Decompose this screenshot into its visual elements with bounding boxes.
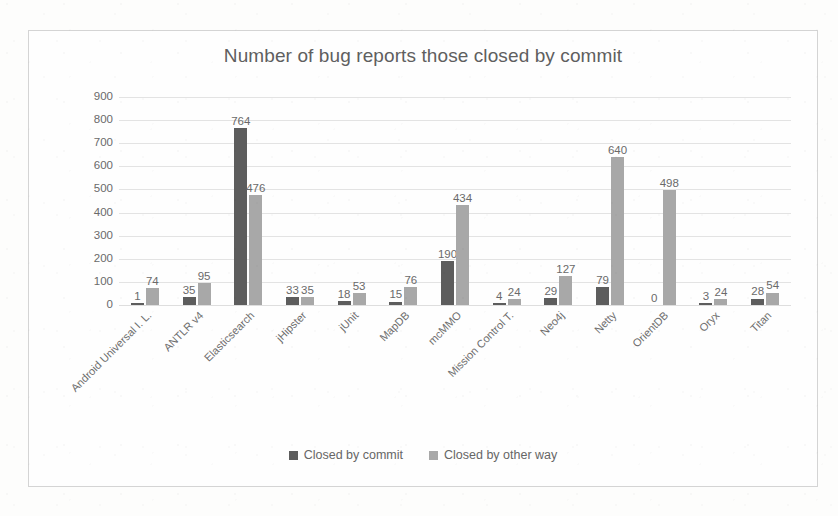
bar-pair: 29127 <box>533 97 585 305</box>
bar-group: 2854 <box>739 97 791 305</box>
bar-value-label: 33 <box>286 284 299 296</box>
bar[interactable]: 190 <box>441 261 454 305</box>
bar-pair: 3335 <box>274 97 326 305</box>
bar-pair: 424 <box>481 97 533 305</box>
bar-group: 1576 <box>377 97 429 305</box>
x-axis-tick-label: MapDB <box>318 309 411 402</box>
y-axis-tick-label: 200 <box>67 252 113 264</box>
bar[interactable]: 640 <box>611 157 624 305</box>
bar[interactable]: 76 <box>404 287 417 305</box>
bar-value-label: 79 <box>596 274 609 286</box>
bar-value-label: 764 <box>231 115 250 127</box>
x-axis-tick-label: Netty <box>525 309 618 402</box>
bar-value-label: 127 <box>556 263 575 275</box>
bar[interactable]: 18 <box>338 301 351 305</box>
bar[interactable]: 24 <box>714 299 727 305</box>
bar-group: 0498 <box>636 97 688 305</box>
bar-value-label: 1 <box>134 290 140 302</box>
bar-group: 3335 <box>274 97 326 305</box>
bar-value-label: 24 <box>508 286 521 298</box>
y-axis-tick-label: 0 <box>67 298 113 310</box>
x-axis-tick-label: Mission Control T. <box>422 309 515 402</box>
bar-group: 29127 <box>533 97 585 305</box>
bar[interactable]: 764 <box>234 128 247 305</box>
y-axis-tick-label: 100 <box>67 275 113 287</box>
legend-label: Closed by commit <box>304 448 403 462</box>
chart-legend: Closed by commitClosed by other way <box>29 448 817 462</box>
bar[interactable]: 127 <box>559 276 572 305</box>
bar-value-label: 3 <box>703 290 709 302</box>
bar-value-label: 4 <box>496 290 502 302</box>
y-axis-tick-label: 900 <box>67 90 113 102</box>
bar-value-label: 54 <box>766 279 779 291</box>
bar-value-label: 640 <box>608 144 627 156</box>
bar-value-label: 190 <box>438 248 457 260</box>
bar[interactable]: 15 <box>389 302 402 305</box>
bar-value-label: 53 <box>353 280 366 292</box>
bar[interactable]: 35 <box>301 297 314 305</box>
legend-item[interactable]: Closed by other way <box>429 448 557 462</box>
plot-area: 9008007006005004003002001000 17435957644… <box>119 97 791 305</box>
y-axis-tick-label: 700 <box>67 136 113 148</box>
x-axis-tick-label: Android Universal I. L. <box>60 309 153 402</box>
bar[interactable]: 79 <box>596 287 609 305</box>
bar[interactable]: 74 <box>146 288 159 305</box>
bar-group: 79640 <box>584 97 636 305</box>
bar[interactable]: 29 <box>544 298 557 305</box>
bar-pair: 1576 <box>377 97 429 305</box>
gridline <box>119 305 791 306</box>
x-axis-tick-label: jHipster <box>215 309 308 402</box>
bar[interactable]: 53 <box>353 293 366 305</box>
x-axis-tick-label: OrientDB <box>577 309 670 402</box>
bar-pair: 2854 <box>739 97 791 305</box>
bar[interactable]: 1 <box>131 303 144 305</box>
bar-value-label: 498 <box>660 177 679 189</box>
bar-pair: 174 <box>119 97 171 305</box>
bar[interactable]: 498 <box>663 190 676 305</box>
chart-title: Number of bug reports those closed by co… <box>29 45 817 67</box>
y-axis-tick-label: 500 <box>67 182 113 194</box>
x-axis-tick-label: jUnit <box>267 309 360 402</box>
bar-group: 174 <box>119 97 171 305</box>
y-axis-tick-label: 300 <box>67 229 113 241</box>
legend-item[interactable]: Closed by commit <box>289 448 403 462</box>
bar-value-label: 15 <box>389 288 402 300</box>
bar-pair: 764476 <box>222 97 274 305</box>
bar[interactable]: 24 <box>508 299 521 305</box>
bar-value-label: 28 <box>751 285 764 297</box>
bar[interactable]: 54 <box>766 293 779 305</box>
bar-value-label: 74 <box>146 275 159 287</box>
bar[interactable]: 33 <box>286 297 299 305</box>
bar-value-label: 76 <box>404 274 417 286</box>
bar[interactable]: 4 <box>493 303 506 305</box>
bar-group: 3595 <box>171 97 223 305</box>
x-axis-tick-label: Elasticsearch <box>163 309 256 402</box>
bar-value-label: 0 <box>651 292 657 304</box>
bar-pair: 324 <box>688 97 740 305</box>
bar-pair: 0498 <box>636 97 688 305</box>
x-axis-tick-label: Neo4j <box>474 309 567 402</box>
bar-group: 424 <box>481 97 533 305</box>
y-axis-tick-label: 800 <box>67 113 113 125</box>
bar[interactable]: 35 <box>183 297 196 305</box>
bar-value-label: 476 <box>246 182 265 194</box>
bar-group: 1853 <box>326 97 378 305</box>
bar-value-label: 35 <box>183 284 196 296</box>
bar-group: 190434 <box>429 97 481 305</box>
bar[interactable]: 95 <box>198 283 211 305</box>
bar-value-label: 434 <box>453 192 472 204</box>
bar-value-label: 35 <box>301 284 314 296</box>
bar-pair: 3595 <box>171 97 223 305</box>
bar[interactable]: 476 <box>249 195 262 305</box>
bar-pair: 190434 <box>429 97 481 305</box>
bar[interactable]: 3 <box>699 303 712 305</box>
bar[interactable]: 28 <box>751 299 764 305</box>
bar-value-label: 24 <box>715 286 728 298</box>
bar[interactable]: 434 <box>456 205 469 305</box>
chart-container: Number of bug reports those closed by co… <box>28 30 818 487</box>
y-axis-tick-label: 400 <box>67 206 113 218</box>
x-axis-tick-label: mcMMO <box>370 309 463 402</box>
y-axis-tick-label: 600 <box>67 159 113 171</box>
legend-label: Closed by other way <box>444 448 557 462</box>
bar-pair: 79640 <box>584 97 636 305</box>
